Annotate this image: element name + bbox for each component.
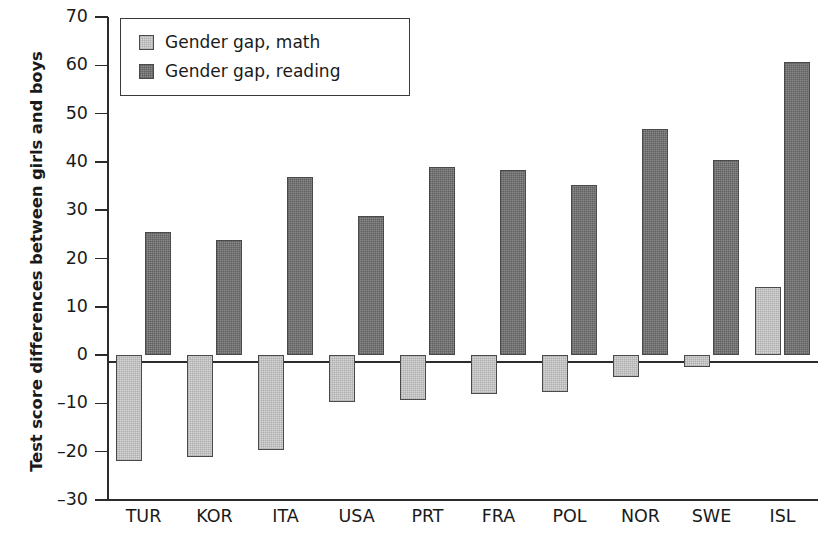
y-axis-tick [95,451,108,453]
bar-usa-reading [358,216,385,356]
x-axis-label-swe: SWE [676,508,747,526]
y-axis-tick-label: 60 [28,56,88,74]
bar-fra-math [471,355,498,394]
x-axis-line [107,499,818,501]
chart-legend: Gender gap, math Gender gap, reading [120,18,410,96]
y-axis-tick-label: 30 [28,201,88,219]
x-axis-label-pol: POL [534,508,605,526]
bar-kor-reading [216,240,243,355]
y-axis-tick-label: –20 [28,443,88,461]
bar-nor-reading [642,129,669,355]
bar-pol-reading [571,185,598,355]
y-axis-tick [95,258,108,260]
legend-label-reading: Gender gap, reading [165,63,340,80]
y-axis-tick [95,403,108,405]
bar-prt-reading [429,167,456,355]
y-axis-tick [95,161,108,163]
legend-item-math: Gender gap, math [139,28,409,57]
y-axis-tick-label: 20 [28,250,88,268]
bar-pol-math [542,355,569,392]
bar-tur-math [116,355,143,461]
bar-fra-reading [500,170,527,355]
y-axis-tick-label: 50 [28,105,88,123]
bar-isl-math [755,287,782,356]
y-axis-tick-label: 40 [28,153,88,171]
x-axis-label-prt: PRT [392,508,463,526]
x-axis-label-kor: KOR [179,508,250,526]
y-axis-tick [95,65,108,67]
y-axis-tick-label: 10 [28,298,88,316]
legend-swatch-math-icon [139,35,154,50]
x-axis-label-ita: ITA [250,508,321,526]
x-axis-label-nor: NOR [605,508,676,526]
y-axis-tick [95,16,108,18]
y-axis-tick [95,209,108,211]
bar-nor-math [613,355,640,377]
y-axis-tick-label: –30 [28,491,88,509]
bar-tur-reading [145,232,172,355]
bar-isl-reading [784,62,811,355]
zero-baseline [107,361,818,363]
x-axis-label-fra: FRA [463,508,534,526]
y-axis-tick [95,306,108,308]
legend-label-math: Gender gap, math [165,34,320,51]
y-axis-tick-label: 70 [28,8,88,26]
bar-swe-math [684,355,711,367]
bar-ita-math [258,355,285,450]
bar-ita-reading [287,177,314,355]
legend-item-reading: Gender gap, reading [139,57,409,86]
y-axis-tick-label: 0 [28,346,88,364]
gender-gap-bar-chart: Test score differences between girls and… [0,0,826,552]
bar-swe-reading [713,160,740,355]
y-axis-tick [95,354,108,356]
y-axis-tick-label: –10 [28,394,88,412]
bar-prt-math [400,355,427,399]
legend-swatch-reading-icon [139,64,154,79]
bar-usa-math [329,355,356,402]
y-axis-tick [95,113,108,115]
x-axis-label-isl: ISL [747,508,818,526]
x-axis-label-tur: TUR [108,508,179,526]
y-axis-tick [95,499,108,501]
x-axis-label-usa: USA [321,508,392,526]
bar-kor-math [187,355,214,457]
